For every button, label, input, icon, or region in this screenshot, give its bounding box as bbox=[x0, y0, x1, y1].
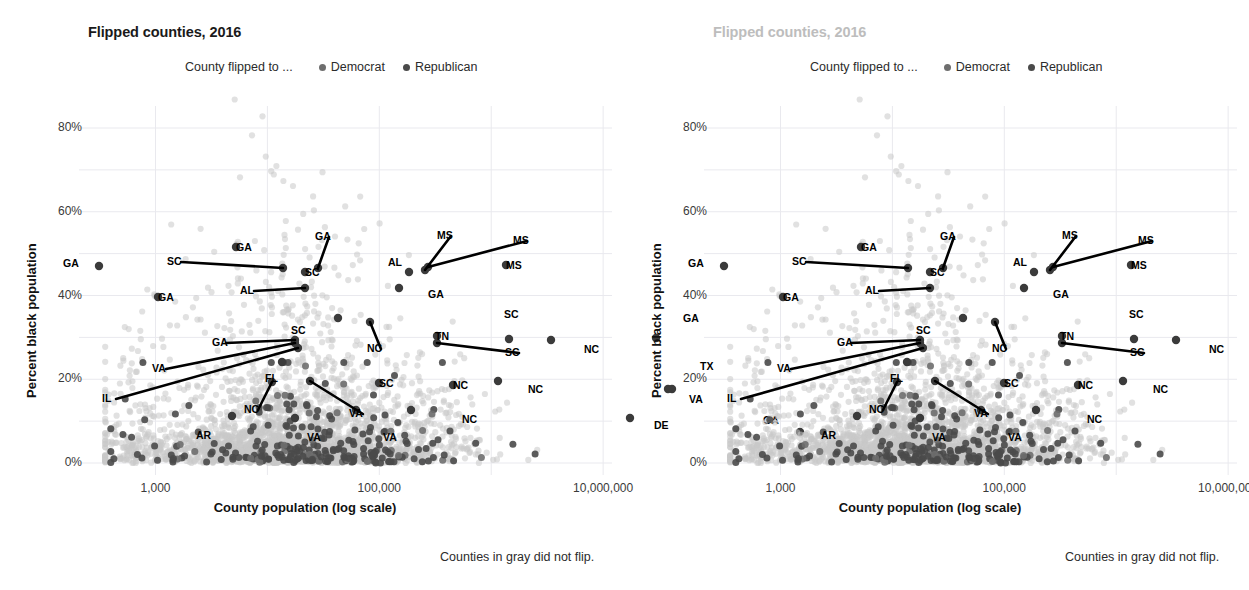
state-label: NC bbox=[453, 379, 469, 391]
state-label: VA bbox=[974, 407, 988, 419]
y-tick-label: 20% bbox=[40, 371, 82, 385]
state-label: GA bbox=[1053, 288, 1069, 300]
state-label: SC bbox=[305, 266, 320, 278]
x-axis-label-right: County population (log scale) bbox=[765, 500, 1095, 515]
state-label: NC bbox=[992, 342, 1008, 354]
scatter-plot-left: GASCGAGAMSMSMSALSCALGAGASCGASCTNGANCSCNC… bbox=[0, 0, 624, 520]
state-label: TN bbox=[1060, 330, 1074, 342]
state-label: SC bbox=[505, 346, 520, 358]
y-tick-label: 0% bbox=[665, 455, 707, 469]
state-label: GA bbox=[158, 291, 174, 303]
state-label: MS bbox=[1131, 259, 1147, 271]
y-tick-label: 80% bbox=[665, 120, 707, 134]
y-tick-label: 80% bbox=[40, 120, 82, 134]
state-label: AR bbox=[821, 429, 837, 441]
state-label: VA bbox=[1008, 431, 1022, 443]
scatter-canvas: GASCGAGAMSMSMSALSCALGAGASCGASCTNGANCSCNC… bbox=[625, 0, 1249, 520]
state-label: VA bbox=[383, 431, 397, 443]
state-label: GA bbox=[688, 257, 704, 269]
state-label: SC bbox=[167, 255, 182, 267]
y-tick-label: 40% bbox=[665, 288, 707, 302]
state-label: SC bbox=[291, 324, 306, 336]
state-label: NC bbox=[869, 403, 885, 415]
series-not-flipped bbox=[102, 96, 540, 466]
state-label: AL bbox=[388, 256, 403, 268]
state-label: SC bbox=[1129, 308, 1144, 320]
state-label: VA bbox=[349, 407, 363, 419]
state-label: SC bbox=[504, 308, 519, 320]
y-tick-label: 20% bbox=[665, 371, 707, 385]
x-tick-label: 1,000 bbox=[96, 481, 216, 495]
state-label: MS bbox=[437, 229, 453, 241]
state-label: VA bbox=[152, 362, 166, 374]
state-label: VA bbox=[777, 362, 791, 374]
state-label: VA bbox=[307, 431, 321, 443]
state-label: FL bbox=[265, 372, 278, 384]
x-axis-label-left: County population (log scale) bbox=[140, 500, 470, 515]
state-label: GA bbox=[428, 288, 444, 300]
state-label: SC bbox=[379, 377, 394, 389]
state-label: AL bbox=[865, 284, 880, 296]
state-label: GA bbox=[861, 241, 877, 253]
chart-panel-left: Flipped counties, 2016 County flipped to… bbox=[0, 0, 624, 590]
state-label: VA bbox=[932, 431, 946, 443]
state-label: MS bbox=[1138, 234, 1154, 246]
state-label: NC bbox=[528, 383, 544, 395]
chart-panel-right: Flipped counties, 2016 County flipped to… bbox=[625, 0, 1249, 590]
state-label: AL bbox=[1013, 256, 1028, 268]
state-label: SC bbox=[1004, 377, 1019, 389]
state-label: NC bbox=[244, 403, 260, 415]
state-label: SC bbox=[930, 266, 945, 278]
state-label: NC bbox=[462, 413, 478, 425]
state-label: GA bbox=[63, 257, 79, 269]
state-label: NC bbox=[1153, 383, 1169, 395]
x-tick-label: 100,000 bbox=[319, 481, 439, 495]
state-label: NC bbox=[1209, 343, 1225, 355]
x-tick-label: 1,000 bbox=[721, 481, 841, 495]
state-label: TN bbox=[435, 330, 449, 342]
state-label: GA bbox=[783, 291, 799, 303]
state-label: NC bbox=[367, 342, 383, 354]
series-not-flipped bbox=[727, 96, 1165, 466]
state-label: NC bbox=[1087, 413, 1103, 425]
scatter-plot-right: GASCGAGAMSMSMSALSCALGAGASCGASCTNGANCSCNC… bbox=[625, 0, 1249, 520]
state-label: MS bbox=[506, 259, 522, 271]
state-label: GA bbox=[837, 336, 853, 348]
y-tick-label: 60% bbox=[40, 204, 82, 218]
state-label: GA bbox=[212, 336, 228, 348]
state-label: GA bbox=[315, 230, 331, 242]
state-label: AR bbox=[196, 429, 212, 441]
state-label: IL bbox=[727, 392, 737, 404]
state-label: IL bbox=[102, 392, 112, 404]
state-label: FL bbox=[890, 372, 903, 384]
state-label: GA bbox=[236, 241, 252, 253]
y-tick-label: 60% bbox=[665, 204, 707, 218]
figure-root: Flipped counties, 2016 County flipped to… bbox=[0, 0, 1249, 590]
state-label: NC bbox=[1078, 379, 1094, 391]
state-label: SC bbox=[792, 255, 807, 267]
x-tick-label: 100,000 bbox=[944, 481, 1064, 495]
state-label: NC bbox=[584, 343, 600, 355]
x-tick-label: 10,000,000 bbox=[1168, 481, 1249, 495]
y-tick-label: 40% bbox=[40, 288, 82, 302]
scatter-canvas: GASCGAGAMSMSMSALSCALGAGASCGASCTNGANCSCNC… bbox=[0, 0, 624, 520]
footnote-left: Counties in gray did not flip. bbox=[440, 550, 594, 564]
state-label: SC bbox=[916, 324, 931, 336]
state-label: AL bbox=[240, 284, 255, 296]
state-label: SC bbox=[1130, 346, 1145, 358]
state-label: GA bbox=[940, 230, 956, 242]
footnote-right: Counties in gray did not flip. bbox=[1065, 550, 1219, 564]
state-label: MS bbox=[1062, 229, 1078, 241]
state-label: MS bbox=[513, 234, 529, 246]
y-tick-label: 0% bbox=[40, 455, 82, 469]
